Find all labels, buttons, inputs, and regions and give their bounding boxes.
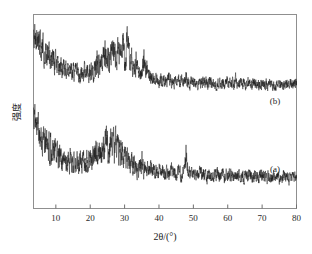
curve-label-b: (b) bbox=[270, 96, 281, 106]
x-tick-label: 10 bbox=[51, 213, 61, 223]
curve-label-a: (a) bbox=[270, 164, 280, 174]
x-tick-label: 40 bbox=[154, 213, 164, 223]
x-axis-label: 2θ/(°) bbox=[153, 231, 176, 243]
x-tick-label: 60 bbox=[223, 213, 233, 223]
y-axis-label: 强度 bbox=[11, 103, 22, 121]
x-tick-label: 50 bbox=[189, 213, 199, 223]
xrd-figure: 1020304050607080 (b) (a) 2θ/(°) 强度 bbox=[0, 0, 312, 254]
x-tick-label: 70 bbox=[258, 213, 268, 223]
x-tick-label: 80 bbox=[292, 213, 302, 223]
x-tick-label: 30 bbox=[120, 213, 130, 223]
xrd-plot-svg: 1020304050607080 (b) (a) 2θ/(°) 强度 bbox=[0, 0, 312, 254]
x-tick-label: 20 bbox=[86, 213, 96, 223]
